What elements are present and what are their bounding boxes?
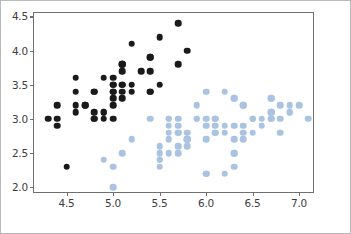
x-tick-mark bbox=[113, 192, 114, 196]
data-point bbox=[100, 109, 107, 116]
data-point bbox=[110, 116, 117, 123]
data-point bbox=[147, 88, 154, 95]
data-point bbox=[249, 116, 256, 123]
x-tick-label: 4.5 bbox=[58, 197, 74, 209]
data-point bbox=[119, 61, 126, 68]
data-point bbox=[231, 163, 238, 170]
data-point bbox=[193, 116, 200, 123]
data-point bbox=[249, 129, 256, 136]
data-point bbox=[175, 20, 182, 27]
data-point bbox=[184, 136, 191, 143]
data-point bbox=[138, 68, 145, 75]
data-point bbox=[82, 102, 89, 109]
data-point bbox=[184, 47, 191, 54]
data-point bbox=[184, 129, 191, 136]
data-point bbox=[147, 54, 154, 61]
data-point bbox=[166, 122, 173, 129]
data-point bbox=[212, 122, 219, 129]
data-point bbox=[156, 34, 163, 41]
data-point bbox=[166, 129, 173, 136]
data-point bbox=[268, 116, 275, 123]
data-point bbox=[128, 81, 135, 88]
data-point bbox=[166, 136, 173, 143]
x-tick-mark bbox=[299, 192, 300, 196]
data-point bbox=[110, 184, 117, 191]
y-tick-label: 4.0 bbox=[12, 45, 28, 57]
data-point bbox=[45, 116, 52, 123]
data-point bbox=[305, 116, 312, 123]
data-point bbox=[73, 109, 80, 116]
data-point bbox=[175, 143, 182, 150]
x-tick-mark bbox=[253, 192, 254, 196]
data-point bbox=[203, 136, 210, 143]
x-tick-label: 6.0 bbox=[198, 197, 214, 209]
data-point bbox=[203, 116, 210, 123]
data-point bbox=[268, 109, 275, 116]
data-point bbox=[147, 68, 154, 75]
x-tick-label: 6.5 bbox=[244, 197, 260, 209]
data-point bbox=[119, 81, 126, 88]
data-point bbox=[156, 143, 163, 150]
data-point bbox=[240, 129, 247, 136]
data-point bbox=[147, 116, 154, 123]
data-point bbox=[166, 150, 173, 157]
data-point bbox=[156, 163, 163, 170]
data-point bbox=[259, 116, 266, 123]
y-tick-label: 2.0 bbox=[12, 181, 28, 193]
y-tick-mark bbox=[30, 153, 34, 154]
data-point bbox=[240, 122, 247, 129]
y-tick-mark bbox=[30, 187, 34, 188]
data-point bbox=[110, 163, 117, 170]
data-point bbox=[240, 102, 247, 109]
data-point bbox=[100, 157, 107, 164]
y-tick-mark bbox=[30, 119, 34, 120]
data-point bbox=[184, 143, 191, 150]
data-point bbox=[119, 150, 126, 157]
data-point bbox=[91, 88, 98, 95]
data-point bbox=[175, 116, 182, 123]
data-point bbox=[100, 75, 107, 82]
data-point bbox=[203, 170, 210, 177]
y-tick-label: 2.5 bbox=[12, 147, 28, 159]
y-tick-mark bbox=[30, 51, 34, 52]
data-point bbox=[221, 122, 228, 129]
data-point bbox=[175, 129, 182, 136]
data-point bbox=[175, 61, 182, 68]
y-tick-label: 3.0 bbox=[12, 113, 28, 125]
data-point bbox=[203, 122, 210, 129]
data-point bbox=[221, 129, 228, 136]
data-point bbox=[277, 102, 284, 109]
y-tick-label: 4.5 bbox=[12, 10, 28, 22]
data-point bbox=[231, 122, 238, 129]
data-point bbox=[91, 116, 98, 123]
data-point bbox=[277, 129, 284, 136]
plot-data-area bbox=[34, 13, 313, 192]
data-point bbox=[156, 150, 163, 157]
data-point bbox=[221, 170, 228, 177]
data-point bbox=[63, 163, 70, 170]
data-point bbox=[110, 95, 117, 102]
data-point bbox=[259, 122, 266, 129]
y-tick-mark bbox=[30, 16, 34, 17]
y-tick-mark bbox=[30, 85, 34, 86]
data-point bbox=[119, 88, 126, 95]
data-point bbox=[231, 95, 238, 102]
data-point bbox=[91, 109, 98, 116]
data-point bbox=[119, 68, 126, 75]
x-tick-label: 7.0 bbox=[291, 197, 307, 209]
data-point bbox=[110, 81, 117, 88]
data-point bbox=[54, 102, 61, 109]
data-point bbox=[240, 136, 247, 143]
data-point bbox=[277, 116, 284, 123]
data-point bbox=[286, 109, 293, 116]
data-point bbox=[128, 136, 135, 143]
figure-canvas: 2.02.53.03.54.04.5 4.55.05.56.06.57.0 bbox=[0, 0, 351, 234]
data-point bbox=[110, 88, 117, 95]
y-tick-label: 3.5 bbox=[12, 79, 28, 91]
x-tick-mark bbox=[160, 192, 161, 196]
data-point bbox=[212, 116, 219, 123]
data-point bbox=[54, 122, 61, 129]
x-tick-label: 5.0 bbox=[105, 197, 121, 209]
data-point bbox=[54, 116, 61, 123]
data-point bbox=[156, 157, 163, 164]
